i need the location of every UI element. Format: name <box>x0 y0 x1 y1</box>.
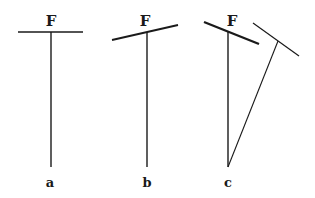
panel-b-force-label: F <box>140 12 151 30</box>
panel-a-caption: a <box>46 175 55 190</box>
t-bar-diagram: F a F b F c <box>0 0 315 198</box>
panel-c-force-label: F <box>227 12 238 30</box>
panel-c-caption: c <box>224 175 232 190</box>
panel-c-slanted-stem <box>228 41 278 167</box>
panel-a: F a <box>18 12 83 190</box>
panel-a-force-label: F <box>46 12 57 30</box>
panel-c-secondary-crossbar <box>253 23 299 56</box>
panel-c: F c <box>204 12 299 190</box>
panel-b-caption: b <box>142 175 151 190</box>
panel-b: F b <box>112 12 178 190</box>
